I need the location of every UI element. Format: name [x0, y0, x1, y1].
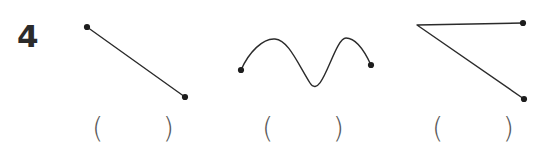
paren-open: ( [432, 108, 443, 149]
paren-close: ) [503, 108, 514, 149]
paren-close: ) [333, 108, 344, 149]
figure-straight-line-segment [84, 24, 188, 100]
endpoint-dot [520, 20, 526, 26]
answer-blank-3[interactable]: ( ) [432, 108, 514, 149]
answer-blank-1[interactable]: ( ) [92, 108, 174, 149]
answer-input-2[interactable] [273, 108, 332, 149]
figure-wavy-curve [238, 38, 374, 87]
wavy-curve-path [241, 38, 371, 87]
answer-blank-2[interactable]: ( ) [262, 108, 344, 149]
line-segment-path [87, 27, 185, 97]
endpoint-dot [84, 24, 90, 30]
endpoint-dot [521, 96, 527, 102]
endpoint-dot [238, 67, 244, 73]
answer-row: ( ) ( ) ( ) [0, 108, 556, 149]
answer-input-3[interactable] [443, 108, 502, 149]
angle-rays-path [417, 23, 524, 99]
paren-open: ( [92, 108, 103, 149]
problem-number: 4 [17, 14, 57, 58]
paren-close: ) [163, 108, 174, 149]
figure-angle-two-rays [417, 20, 527, 102]
worksheet-problem: 4 ( ) ( ) ( [0, 0, 556, 149]
endpoint-dot [182, 94, 188, 100]
answer-input-1[interactable] [103, 108, 162, 149]
endpoint-dot [368, 62, 374, 68]
paren-open: ( [262, 108, 273, 149]
